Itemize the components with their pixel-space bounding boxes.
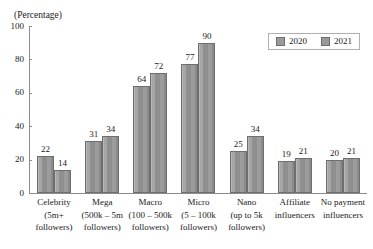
- bar-2021[interactable]: 34: [247, 26, 264, 193]
- bar-rect[interactable]: [133, 86, 150, 193]
- category-label-line: Affiliate: [272, 196, 318, 209]
- x-axis-category-label: Celebrity(5m+followers): [30, 196, 78, 234]
- bar-value-label: 34: [106, 125, 115, 134]
- bar-group: 1921: [271, 26, 319, 193]
- bar-value-label: 31: [89, 130, 98, 139]
- legend-item-2020: 2020: [276, 37, 307, 46]
- x-axis-category-label: Mega(500k – 5mfollowers): [78, 196, 126, 234]
- bar-rect[interactable]: [278, 161, 295, 193]
- bar-value-label: 72: [154, 62, 163, 71]
- bar-rect[interactable]: [150, 73, 167, 193]
- bar-rect[interactable]: [85, 141, 102, 193]
- bar-value-label: 34: [251, 125, 260, 134]
- bar-value-label: 21: [299, 147, 308, 156]
- y-axis-tick-label: 40: [2, 122, 24, 131]
- y-axis-tick-label: 80: [2, 55, 24, 64]
- bar-group: 7790: [174, 26, 222, 193]
- chart-legend: 2020 2021: [268, 33, 360, 50]
- y-axis-unit-caption: (Percentage): [14, 10, 62, 21]
- bar-2021[interactable]: 14: [54, 26, 71, 193]
- bar-group: 2214: [30, 26, 78, 193]
- category-label-line: Macro: [127, 196, 173, 209]
- legend-label-2021: 2021: [334, 37, 352, 46]
- bar-2021[interactable]: 72: [150, 26, 167, 193]
- bar-value-label: 25: [234, 140, 243, 149]
- bar-value-label: 20: [330, 149, 339, 158]
- bar-group: 3134: [78, 26, 126, 193]
- bar-2020[interactable]: 19: [278, 26, 295, 193]
- y-axis-tick-mark: [29, 193, 32, 194]
- bar-rect[interactable]: [54, 170, 71, 193]
- bar-chart: (Percentage) 020406080100 22143134647277…: [0, 0, 373, 249]
- bar-value-label: 64: [137, 75, 146, 84]
- category-label-line: Mega: [79, 196, 125, 209]
- legend-item-2021: 2021: [321, 37, 352, 46]
- legend-swatch-2020: [276, 37, 285, 46]
- bar-value-label: 21: [347, 147, 356, 156]
- plot-area: 020406080100 221431346472779025341921202…: [29, 26, 367, 194]
- y-axis-tick-label: 20: [2, 155, 24, 164]
- y-axis-tick-label: 0: [2, 189, 24, 198]
- legend-label-2020: 2020: [289, 37, 307, 46]
- bar-2020[interactable]: 64: [133, 26, 150, 193]
- bar-rect[interactable]: [295, 158, 312, 193]
- x-axis-category-label: Affiliateinfluencers: [271, 196, 319, 234]
- bar-2021[interactable]: 21: [343, 26, 360, 193]
- bar-2021[interactable]: 90: [198, 26, 215, 193]
- category-label-line: Micro: [175, 196, 221, 209]
- bar-value-label: 77: [185, 53, 194, 62]
- category-label-line: (5m+: [31, 209, 77, 222]
- category-label-line: followers): [224, 221, 270, 234]
- bar-2020[interactable]: 20: [326, 26, 343, 193]
- x-axis-category-label: Nano(up to 5kfollowers): [223, 196, 271, 234]
- category-label-line: (up to 5k: [224, 209, 270, 222]
- bar-rect[interactable]: [181, 64, 198, 193]
- bar-rect[interactable]: [102, 136, 119, 193]
- bar-2021[interactable]: 21: [295, 26, 312, 193]
- bar-rect[interactable]: [343, 158, 360, 193]
- bar-rect[interactable]: [230, 151, 247, 193]
- bar-2020[interactable]: 22: [37, 26, 54, 193]
- x-axis-category-label: Micro(5 – 100kfollowers): [174, 196, 222, 234]
- bar-group: 2021: [319, 26, 367, 193]
- category-label-line: followers): [127, 221, 173, 234]
- category-label-line: influencers: [272, 209, 318, 222]
- bar-value-label: 90: [202, 32, 211, 41]
- x-axis-category-label: No paymentinfluencers: [319, 196, 367, 234]
- y-axis-tick-label: 100: [2, 22, 24, 31]
- bar-2020[interactable]: 31: [85, 26, 102, 193]
- category-label-line: Nano: [224, 196, 270, 209]
- bar-2020[interactable]: 77: [181, 26, 198, 193]
- x-axis-category-label: Macro(100 – 500kfollowers): [126, 196, 174, 234]
- category-label-line: (500k – 5m: [79, 209, 125, 222]
- x-axis-line: [29, 193, 367, 194]
- bar-group: 2534: [223, 26, 271, 193]
- bar-groups: 2214313464727790253419212021: [30, 26, 367, 193]
- bar-value-label: 19: [282, 150, 291, 159]
- bar-rect[interactable]: [247, 136, 264, 193]
- bar-rect[interactable]: [326, 160, 343, 193]
- bar-rect[interactable]: [37, 156, 54, 193]
- bar-2021[interactable]: 34: [102, 26, 119, 193]
- category-label-line: (100 – 500k: [127, 209, 173, 222]
- x-axis-category-labels: Celebrity(5m+followers)Mega(500k – 5mfol…: [30, 196, 367, 234]
- bar-group: 6472: [126, 26, 174, 193]
- category-label-line: Celebrity: [31, 196, 77, 209]
- category-label-line: followers): [31, 221, 77, 234]
- category-label-line: influencers: [320, 209, 366, 222]
- bar-2020[interactable]: 25: [230, 26, 247, 193]
- bar-rect[interactable]: [198, 43, 215, 193]
- category-label-line: followers): [79, 221, 125, 234]
- category-label-line: followers): [175, 221, 221, 234]
- legend-swatch-2021: [321, 37, 330, 46]
- bar-value-label: 14: [58, 159, 67, 168]
- category-label-line: No payment: [320, 196, 366, 209]
- bar-value-label: 22: [41, 145, 50, 154]
- y-axis-tick-label: 60: [2, 88, 24, 97]
- category-label-line: (5 – 100k: [175, 209, 221, 222]
